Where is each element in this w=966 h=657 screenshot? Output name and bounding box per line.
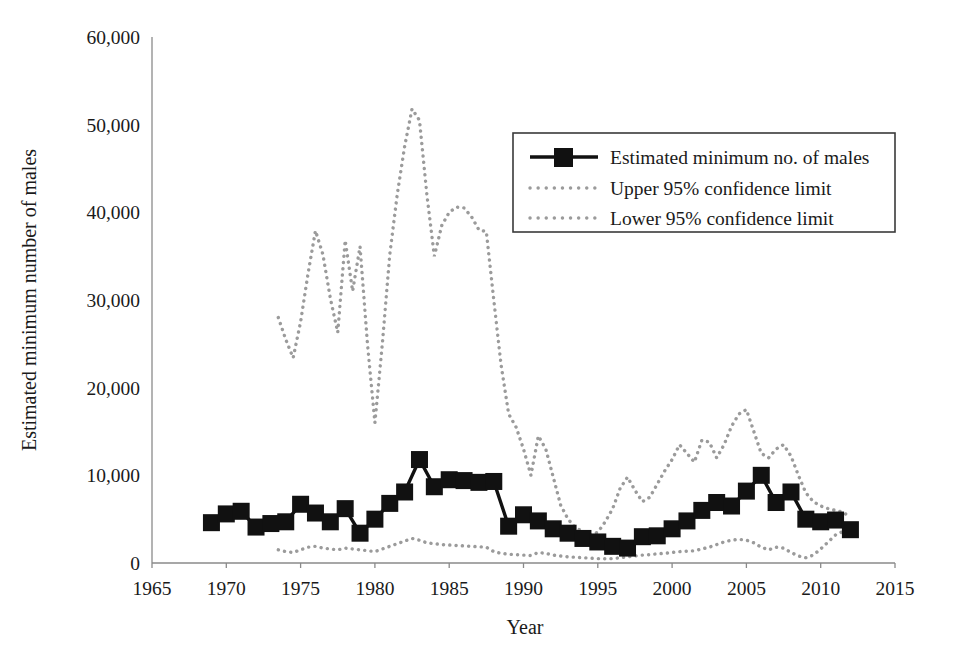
- data-point-marker: [827, 512, 844, 529]
- data-point-marker: [366, 511, 383, 528]
- y-axis-title: Estimated minimum number of males: [18, 149, 40, 451]
- data-point-marker: [797, 511, 814, 528]
- data-point-marker: [500, 518, 517, 535]
- data-point-marker: [649, 527, 666, 544]
- data-point-marker: [322, 513, 339, 530]
- data-point-marker: [812, 513, 829, 530]
- data-point-marker: [753, 467, 770, 484]
- data-point-marker: [708, 494, 725, 511]
- data-point-marker: [738, 483, 755, 500]
- data-point-marker: [664, 520, 681, 537]
- data-point-marker: [768, 494, 785, 511]
- data-point-marker: [337, 500, 354, 517]
- x-tick-label: 1985: [430, 578, 469, 599]
- data-point-marker: [485, 473, 502, 490]
- x-tick-label: 1970: [207, 578, 246, 599]
- legend-label-lower-limit: Lower 95% confidence limit: [610, 208, 834, 229]
- data-point-marker: [693, 502, 710, 519]
- data-point-marker: [515, 506, 532, 523]
- data-point-marker: [678, 512, 695, 529]
- x-axis-tick-labels: 1965197019751980198519901995200020052010…: [133, 578, 915, 599]
- x-tick-label: 2010: [801, 578, 840, 599]
- data-point-marker: [574, 530, 591, 547]
- data-point-marker: [545, 520, 562, 537]
- legend-square-marker: [554, 148, 573, 167]
- x-axis-title: Year: [507, 616, 544, 638]
- data-point-marker: [604, 538, 621, 555]
- data-point-marker: [352, 525, 369, 542]
- data-point-marker: [560, 525, 577, 542]
- y-tick-label: 40,000: [86, 202, 140, 223]
- data-point-marker: [307, 505, 324, 522]
- data-point-marker: [203, 514, 220, 531]
- y-tick-label: 0: [130, 553, 140, 574]
- y-tick-label: 30,000: [86, 290, 140, 311]
- x-axis-tick-marks: [152, 563, 895, 568]
- x-tick-label: 1990: [504, 578, 543, 599]
- legend-label-estimated-minimum: Estimated minimum no. of males: [610, 147, 869, 168]
- data-point-marker: [619, 540, 636, 557]
- data-point-marker: [411, 451, 428, 468]
- data-point-marker: [530, 512, 547, 529]
- data-point-marker: [441, 471, 458, 488]
- legend: Estimated minimum no. of males Upper 95%…: [513, 133, 895, 232]
- data-point-marker: [248, 519, 265, 536]
- chart-canvas: 010,00020,00030,00040,00050,00060,000 19…: [0, 0, 966, 657]
- data-point-marker: [842, 521, 859, 538]
- x-tick-label: 1995: [578, 578, 617, 599]
- y-tick-label: 10,000: [86, 465, 140, 486]
- data-point-marker: [456, 472, 473, 489]
- y-tick-label: 60,000: [86, 27, 140, 48]
- data-point-marker: [233, 503, 250, 520]
- x-tick-label: 1965: [133, 578, 172, 599]
- chart-figure: 010,00020,00030,00040,00050,00060,000 19…: [0, 0, 966, 657]
- data-point-marker: [723, 498, 740, 515]
- data-point-marker: [381, 495, 398, 512]
- legend-label-upper-limit: Upper 95% confidence limit: [610, 178, 832, 199]
- y-tick-label: 50,000: [86, 115, 140, 136]
- estimated-minimum-males-markers: [203, 451, 859, 557]
- data-point-marker: [782, 483, 799, 500]
- data-point-marker: [634, 528, 651, 545]
- x-tick-label: 2015: [876, 578, 915, 599]
- x-tick-label: 2005: [727, 578, 766, 599]
- data-point-marker: [470, 474, 487, 491]
- data-point-marker: [218, 505, 235, 522]
- data-point-marker: [277, 513, 294, 530]
- data-point-marker: [396, 483, 413, 500]
- y-axis-tick-labels: 010,00020,00030,00040,00050,00060,000: [86, 27, 140, 574]
- data-point-marker: [262, 515, 279, 532]
- data-point-marker: [426, 478, 443, 495]
- data-point-marker: [292, 496, 309, 513]
- x-tick-label: 1975: [281, 578, 320, 599]
- y-tick-label: 20,000: [86, 378, 140, 399]
- x-tick-label: 1980: [355, 578, 394, 599]
- x-tick-label: 2000: [653, 578, 692, 599]
- data-point-marker: [589, 533, 606, 550]
